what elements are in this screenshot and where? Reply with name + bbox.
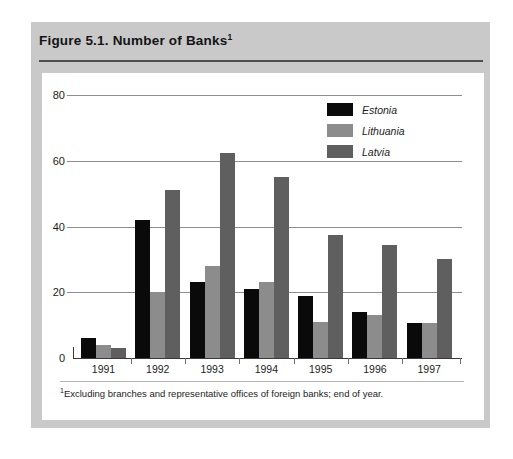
x-axis-tick-0 [131,358,132,364]
bar-estonia-1991 [81,338,96,358]
x-tick-label-1995: 1995 [309,363,332,375]
x-tick-label-1997: 1997 [418,363,441,375]
y-axis-line [73,347,74,358]
bar-lithuania-1994 [259,282,274,358]
x-axis-tick-3 [294,358,295,364]
y-tick-label-40: 40 [53,221,65,233]
x-tick-label-1991: 1991 [92,363,115,375]
bar-estonia-1997 [407,323,422,358]
bar-estonia-1996 [352,312,367,358]
footnote-text: Excluding branches and representative of… [64,388,383,399]
legend-item-estonia: Estonia [327,101,405,118]
y-tick-label-0: 0 [59,352,65,364]
bar-latvia-1992 [165,190,180,358]
legend-label-latvia: Latvia [362,146,390,158]
bar-latvia-1994 [274,177,289,358]
bar-estonia-1992 [135,220,150,358]
bar-latvia-1996 [382,245,397,358]
legend-label-lithuania: Lithuania [362,125,405,137]
legend-swatch-estonia [327,103,353,116]
bar-latvia-1997 [437,259,452,358]
y-tick-mark-40 [67,227,74,228]
legend-item-latvia: Latvia [327,143,405,160]
bar-lithuania-1995 [313,322,328,358]
bar-latvia-1991 [111,348,126,358]
footnote-divider [60,381,464,382]
figure-title-footnote-marker: 1 [227,32,232,42]
y-tick-label-60: 60 [53,155,65,167]
chart-legend: EstoniaLithuaniaLatvia [327,101,405,164]
bar-lithuania-1991 [96,345,111,358]
y-tick-mark-20 [67,292,74,293]
x-axis-tick-end [460,358,461,364]
figure-title: Figure 5.1. Number of Banks1 [39,33,232,48]
x-axis-tick-4 [348,358,349,364]
x-tick-label-1992: 1992 [146,363,169,375]
x-tick-label-1993: 1993 [200,363,223,375]
bar-lithuania-1992 [150,292,165,358]
x-axis-tick-2 [239,358,240,364]
x-axis-tick-5 [402,358,403,364]
y-tick-label-80: 80 [53,89,65,101]
figure-title-text: Figure 5.1. Number of Banks [39,33,227,48]
bar-estonia-1994 [244,289,259,358]
bar-group-1994 [244,95,289,358]
bar-latvia-1993 [220,153,235,358]
y-tick-label-20: 20 [53,286,65,298]
bar-lithuania-1996 [367,315,382,358]
legend-swatch-lithuania [327,124,353,137]
bar-group-1992 [135,95,180,358]
bar-group-1993 [190,95,235,358]
bar-lithuania-1997 [422,323,437,358]
bar-estonia-1993 [190,282,205,358]
x-axis-tick-1 [185,358,186,364]
y-tick-mark-60 [67,161,74,162]
x-tick-label-1994: 1994 [255,363,278,375]
figure-footnote: 1Excluding branches and representative o… [60,388,470,399]
title-divider [39,60,483,62]
bar-group-1997 [407,95,452,358]
x-tick-label-1996: 1996 [363,363,386,375]
bar-estonia-1995 [298,296,313,358]
legend-item-lithuania: Lithuania [327,122,405,139]
legend-label-estonia: Estonia [362,104,397,116]
bar-lithuania-1993 [205,266,220,358]
y-tick-mark-80 [67,95,74,96]
bar-latvia-1995 [328,235,343,358]
legend-swatch-latvia [327,145,353,158]
bar-group-1991 [81,95,126,358]
